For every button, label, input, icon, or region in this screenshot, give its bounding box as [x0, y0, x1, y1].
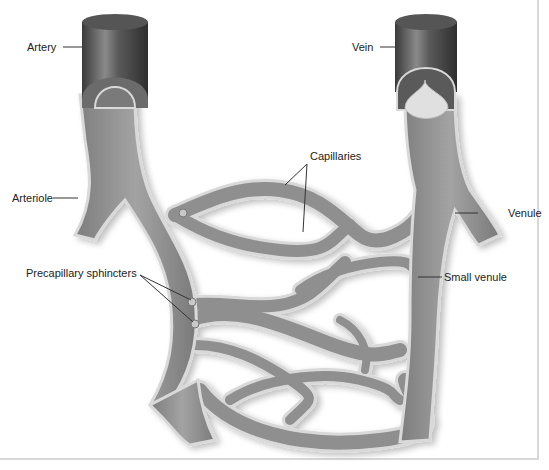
vein-cylinder [395, 14, 457, 119]
label-small-venule: Small venule [444, 271, 507, 283]
label-precapillary-sphincters: Precapillary sphincters [26, 267, 137, 279]
label-artery: Artery [27, 41, 56, 53]
label-capillaries: Capillaries [310, 150, 361, 162]
venule-vessel [400, 95, 500, 442]
vessel-network [75, 95, 500, 445]
label-vein: Vein [352, 41, 373, 53]
arteriole-vessel [75, 95, 196, 415]
label-arteriole: Arteriole [12, 192, 53, 204]
sphincter-top [179, 209, 187, 217]
capillary-bed-illustration [0, 0, 549, 470]
artery-cylinder [82, 14, 148, 108]
label-venule: Venule [508, 207, 542, 219]
